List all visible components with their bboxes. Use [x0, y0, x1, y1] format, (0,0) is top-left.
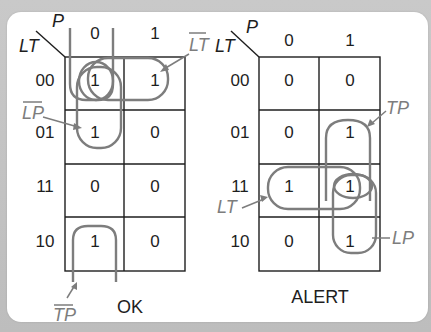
kmap-alert: P LT 0 1 00 01 11 10 0 0 0 1 1 1 0 1 TP [215, 17, 414, 307]
kmap-cell: 1 [90, 123, 99, 142]
kmap-cell: 1 [345, 232, 354, 251]
corner-diagonal [36, 31, 65, 57]
col-variable-label: P [52, 11, 64, 31]
arrow-icon [367, 119, 375, 127]
kmap-cell: 0 [150, 232, 159, 251]
row-header: 10 [231, 232, 250, 251]
row-header: 10 [36, 232, 55, 251]
annotation-lt: LT [217, 195, 268, 217]
col-variable-label: P [246, 17, 258, 37]
svg-text:LT: LT [217, 197, 239, 217]
kmap-cell: 0 [284, 232, 293, 251]
kmap-title: OK [117, 297, 143, 317]
col-header: 0 [90, 24, 99, 43]
kmap-cell: 0 [284, 123, 293, 142]
kmap-cell: 1 [150, 71, 159, 90]
kmap-cell: 0 [150, 123, 159, 142]
row-header: 00 [231, 71, 250, 90]
svg-text:LP: LP [392, 228, 414, 248]
svg-text:LT: LT [189, 35, 211, 55]
col-header: 0 [284, 31, 293, 50]
kmap-cell: 0 [90, 177, 99, 196]
svg-text:TP: TP [386, 98, 409, 118]
row-header: 01 [36, 123, 55, 142]
kmap-cell: 1 [90, 71, 99, 90]
row-variable-label: LT [19, 36, 41, 56]
annotation-lp: LP [372, 228, 414, 248]
svg-text:TP: TP [53, 305, 76, 325]
kmap-cell: 1 [90, 232, 99, 251]
kmap-cell: 1 [345, 177, 354, 196]
col-header: 1 [150, 24, 159, 43]
annotation-tp-bar: TP [53, 282, 77, 325]
annotation-tp: TP [367, 98, 409, 127]
col-header: 1 [345, 31, 354, 50]
row-header: 00 [36, 71, 55, 90]
kmap-cell: 0 [284, 71, 293, 90]
kmap-ok: P LT 0 1 00 01 11 10 1 1 1 0 0 0 1 0 [19, 11, 211, 325]
kmap-cell: 0 [150, 177, 159, 196]
row-variable-label: LT [215, 36, 237, 56]
svg-text:LP: LP [22, 103, 44, 123]
kmap-diagram: P LT 0 1 00 01 11 10 1 1 1 0 0 0 1 0 [0, 0, 431, 332]
kmap-title: ALERT [291, 287, 349, 307]
row-header: 01 [231, 123, 250, 142]
kmap-cell: 1 [284, 177, 293, 196]
row-header: 11 [36, 177, 54, 196]
kmap-cell: 0 [345, 71, 354, 90]
kmap-cell: 1 [345, 123, 354, 142]
row-header: 11 [231, 177, 249, 196]
